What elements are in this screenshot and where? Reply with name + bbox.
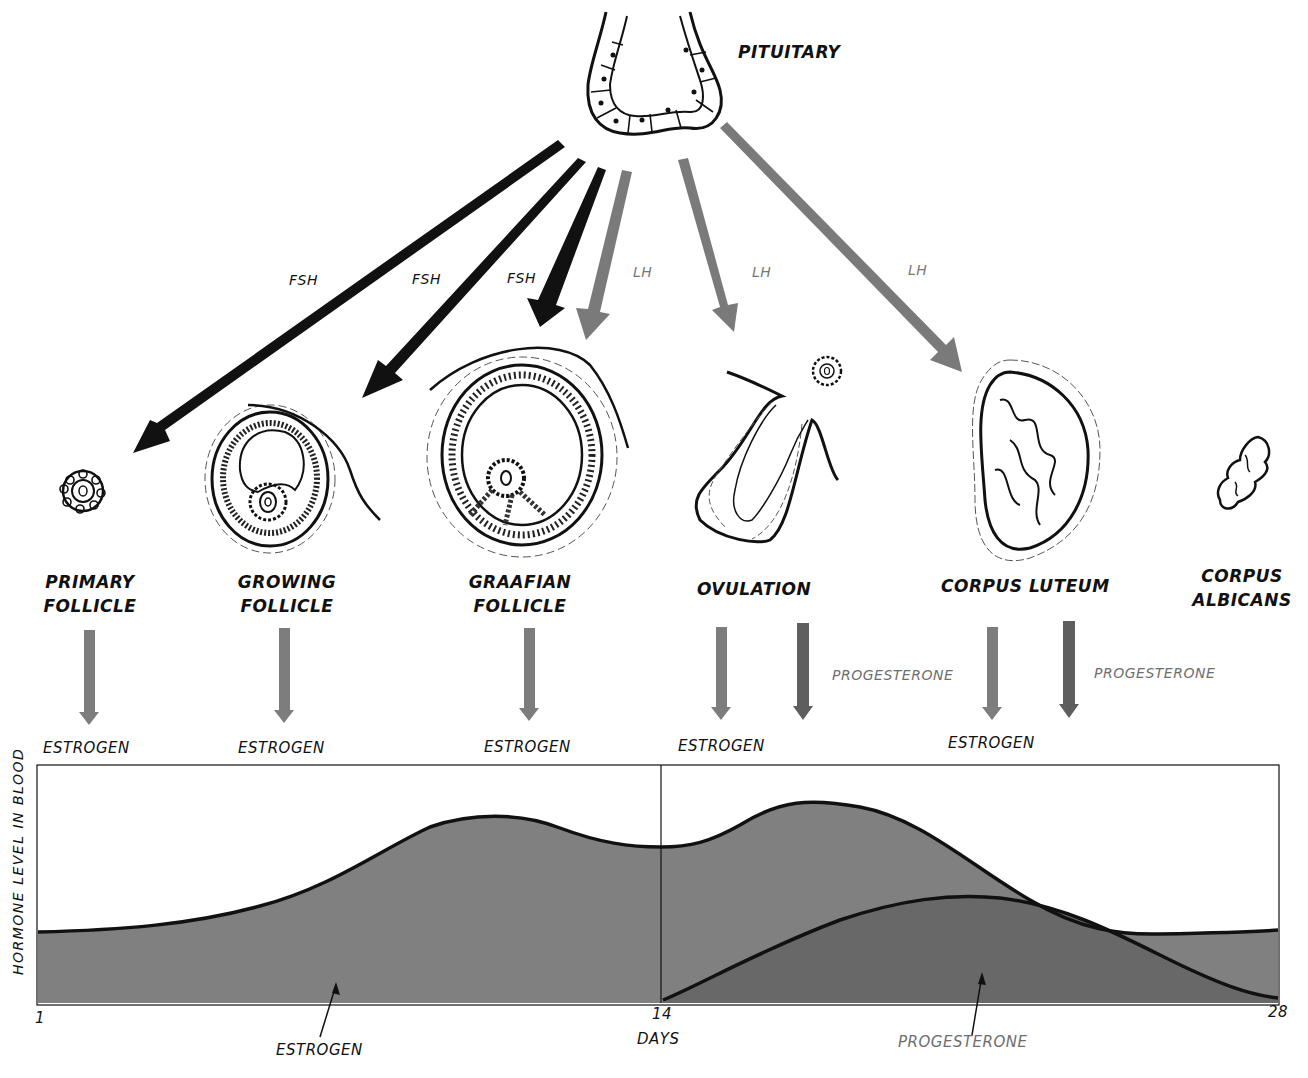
graafian-follicle-illustration bbox=[427, 348, 628, 557]
x-tick-day-14: 14 bbox=[652, 1005, 672, 1023]
output-label-estrogen: ESTROGEN bbox=[238, 739, 325, 757]
stage-label-line: FOLLICLE bbox=[40, 594, 140, 618]
output-label-estrogen: ESTROGEN bbox=[43, 739, 130, 757]
stage-label-graafian-follicle: GRAAFIAN FOLLICLE bbox=[460, 570, 580, 618]
stage-label-line: CORPUS bbox=[1192, 564, 1292, 588]
primary-follicle-illustration bbox=[60, 470, 105, 513]
hormone-label-lh: LH bbox=[633, 264, 652, 280]
stage-label-line: FOLLICLE bbox=[460, 594, 580, 618]
output-label-estrogen: ESTROGEN bbox=[484, 738, 571, 756]
output-label-progesterone: PROGESTERONE bbox=[1094, 665, 1215, 681]
progesterone-series-label: PROGESTERONE bbox=[898, 1033, 1027, 1051]
x-tick-day-28: 28 bbox=[1268, 1003, 1288, 1021]
hormone-label-lh: LH bbox=[908, 262, 927, 278]
ovulation-illustration bbox=[696, 357, 841, 542]
hormone-label-fsh: FSH bbox=[507, 270, 536, 286]
hormone-label-fsh: FSH bbox=[289, 272, 318, 288]
stage-label-ovulation: OVULATION bbox=[697, 577, 811, 601]
estrogen-series-label: ESTROGEN bbox=[276, 1041, 363, 1059]
stage-label-line: GRAAFIAN bbox=[460, 570, 580, 594]
graph-y-axis-label: HORMONE LEVEL IN BLOOD bbox=[10, 795, 26, 975]
hormone-graph bbox=[37, 765, 1279, 1037]
lh-arrow-corpus-luteum bbox=[720, 122, 962, 372]
output-label-progesterone: PROGESTERONE bbox=[832, 667, 953, 683]
stage-label-primary-follicle: PRIMARY FOLLICLE bbox=[40, 570, 140, 618]
stage-label-line: ALBICANS bbox=[1192, 588, 1292, 612]
corpus-luteum-illustration bbox=[973, 360, 1101, 561]
stage-label-line: PRIMARY bbox=[40, 570, 140, 594]
output-label-estrogen: ESTROGEN bbox=[948, 734, 1035, 752]
stage-label-corpus-albicans: CORPUS ALBICANS bbox=[1192, 564, 1292, 612]
diagram-canvas bbox=[0, 0, 1308, 1078]
graph-x-axis-label: DAYS bbox=[637, 1030, 680, 1048]
hormone-label-lh: LH bbox=[752, 264, 771, 280]
stage-label-line: FOLLICLE bbox=[232, 594, 342, 618]
stage-label-growing-follicle: GROWING FOLLICLE bbox=[232, 570, 342, 618]
fsh-arrow-primary bbox=[133, 140, 565, 453]
pituitary-label: PITUITARY bbox=[738, 40, 840, 64]
stage-label-line: GROWING bbox=[232, 570, 342, 594]
pituitary-illustration bbox=[588, 12, 721, 134]
stage-label-corpus-luteum: CORPUS LUTEUM bbox=[941, 574, 1110, 598]
lh-arrow-ovulation bbox=[678, 158, 738, 332]
x-tick-day-1: 1 bbox=[35, 1009, 45, 1027]
corpus-albicans-illustration bbox=[1218, 437, 1269, 509]
output-label-estrogen: ESTROGEN bbox=[678, 737, 765, 755]
hormone-label-fsh: FSH bbox=[412, 271, 441, 287]
growing-follicle-illustration bbox=[205, 405, 380, 553]
lh-arrow-graafian bbox=[576, 170, 632, 340]
